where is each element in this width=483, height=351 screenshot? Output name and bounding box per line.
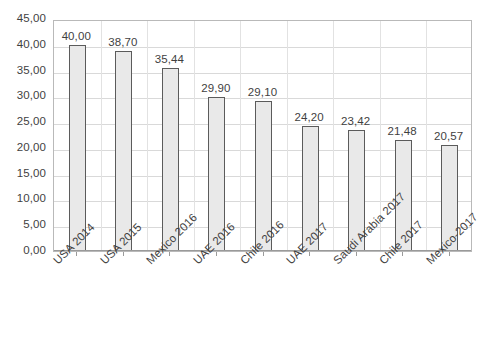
- y-tick-label: 35,00: [0, 64, 46, 76]
- bar-value-label: 23,42: [332, 115, 380, 127]
- x-tick: [216, 252, 217, 256]
- x-tick: [123, 252, 124, 256]
- x-tick: [356, 252, 357, 256]
- bar-value-label: 20,57: [425, 130, 473, 142]
- bar: [69, 45, 86, 251]
- gridline-vertical: [240, 21, 241, 251]
- x-tick: [449, 252, 450, 256]
- y-tick-label: 0,00: [0, 244, 46, 256]
- bar: [162, 68, 179, 251]
- bar-value-label: 29,10: [239, 86, 287, 98]
- y-tick-label: 15,00: [0, 167, 46, 179]
- y-tick-label: 25,00: [0, 115, 46, 127]
- y-tick-label: 45,00: [0, 12, 46, 24]
- x-tick: [169, 252, 170, 256]
- bar-value-label: 24,20: [285, 111, 333, 123]
- x-tick: [263, 252, 264, 256]
- gridline-vertical: [101, 21, 102, 251]
- x-tick: [402, 252, 403, 256]
- y-tick-label: 30,00: [0, 89, 46, 101]
- y-tick-label: 20,00: [0, 141, 46, 153]
- bar-value-label: 29,90: [192, 82, 240, 94]
- bar-value-label: 21,48: [378, 125, 426, 137]
- bar-value-label: 38,70: [99, 36, 147, 48]
- y-tick-label: 10,00: [0, 192, 46, 204]
- bar-chart: 45,0040,0035,0030,0025,0020,0015,0010,00…: [0, 0, 483, 351]
- x-tick: [76, 252, 77, 256]
- y-tick-label: 5,00: [0, 218, 46, 230]
- y-axis: 45,0040,0035,0030,0025,0020,0015,0010,00…: [0, 0, 48, 351]
- bar: [115, 51, 132, 251]
- bar-value-label: 35,44: [145, 53, 193, 65]
- gridline-vertical: [333, 21, 334, 251]
- x-tick: [309, 252, 310, 256]
- y-tick-label: 40,00: [0, 38, 46, 50]
- bar-value-label: 40,00: [52, 30, 100, 42]
- gridline-vertical: [287, 21, 288, 251]
